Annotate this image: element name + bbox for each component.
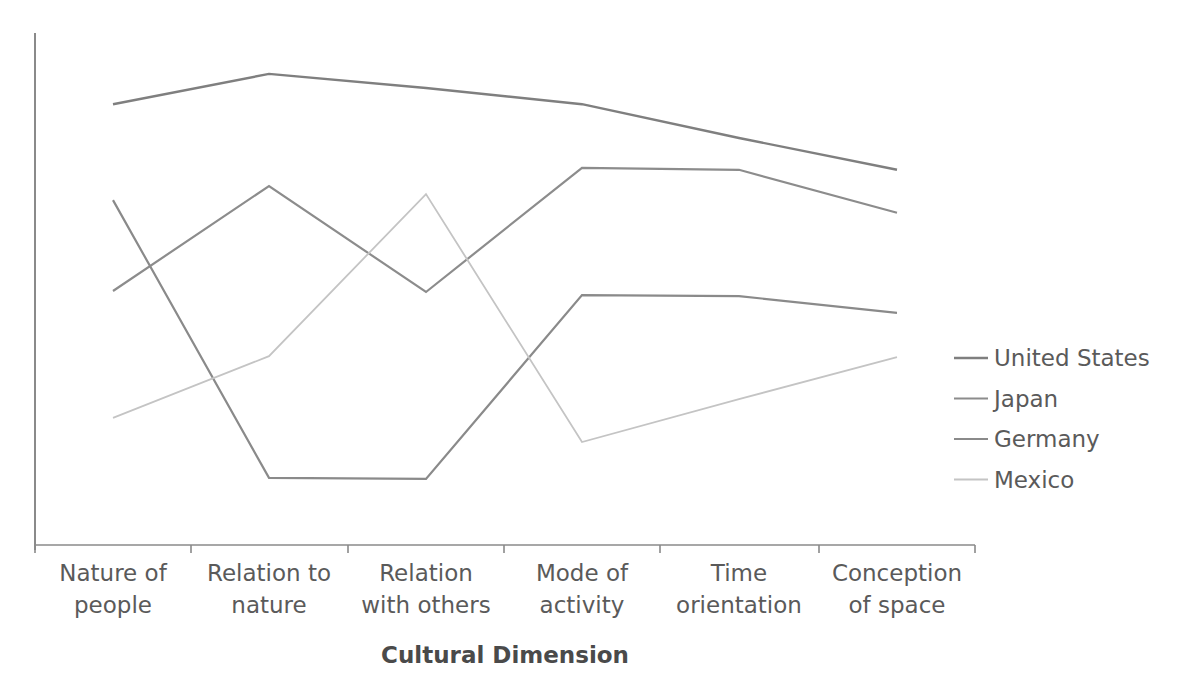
x-tick-label: Relationwith others (361, 560, 490, 618)
legend-item: Japan (954, 386, 1058, 412)
legend-label: United States (994, 345, 1150, 371)
x-tick-label: Conceptionof space (832, 560, 962, 618)
x-tick-label: Timeorientation (676, 560, 802, 618)
series-line-germany (113, 200, 897, 479)
legend-item: United States (954, 345, 1150, 371)
legend-item: Mexico (954, 467, 1074, 493)
series-lines (113, 74, 897, 479)
legend: United StatesJapanGermanyMexico (954, 345, 1150, 493)
x-tick-label: Mode ofactivity (536, 560, 629, 618)
legend-label: Germany (994, 426, 1100, 452)
x-tick-labels: Nature ofpeopleRelation tonatureRelation… (59, 560, 962, 618)
legend-item: Germany (954, 426, 1100, 452)
x-axis-title: Cultural Dimension (381, 642, 629, 668)
series-line-japan (113, 168, 897, 292)
x-tick-label: Relation tonature (207, 560, 331, 618)
series-line-mexico (113, 194, 897, 442)
series-line-united-states (113, 74, 897, 170)
axes (35, 33, 975, 553)
legend-label: Japan (992, 386, 1058, 412)
x-tick-label: Nature ofpeople (59, 560, 167, 618)
legend-label: Mexico (994, 467, 1074, 493)
x-ticks (35, 545, 975, 553)
line-chart: Nature ofpeopleRelation tonatureRelation… (0, 0, 1198, 689)
